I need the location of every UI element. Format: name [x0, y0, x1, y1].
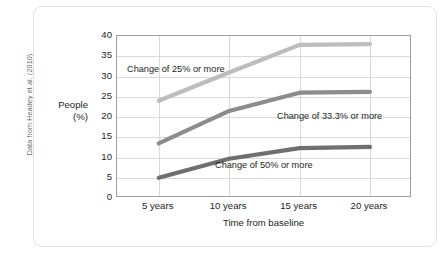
x-axis-title: Time from baseline [116, 217, 411, 228]
x-axis-tick-label: 15 years [280, 201, 317, 211]
figure-card: People (%) 4035302520151050 Change of 25… [33, 6, 437, 247]
chart-figure: People (%) 4035302520151050 Change of 25… [34, 7, 436, 246]
x-axis-tick-labels: 5 years10 years15 years20 years [116, 201, 411, 215]
x-axis-tick-label: 5 years [142, 201, 173, 211]
x-axis-tick-label: 10 years [210, 201, 247, 211]
y-axis-tick-label: 30 [90, 71, 112, 81]
y-axis-tick-label: 40 [90, 30, 112, 40]
annotation-50-percent: Change of 50% or more [215, 161, 313, 170]
y-axis-tick-label: 25 [90, 91, 112, 101]
y-axis-tick-label: 10 [90, 152, 112, 162]
y-axis-tick-label: 0 [90, 192, 112, 202]
figure-page: Data from Headey et al. (2010) People (%… [0, 0, 448, 258]
y-axis-tick-labels: 4035302520151050 [82, 35, 112, 197]
y-axis-tick-label: 5 [90, 172, 112, 182]
plot-area: Change of 25% or more Change of 33.3% or… [116, 35, 411, 197]
x-axis-tick-label: 20 years [351, 201, 388, 211]
y-axis-tick-label: 15 [90, 131, 112, 141]
annotation-33-percent: Change of 33.3% or more [277, 112, 382, 121]
y-axis-tick-label: 35 [90, 50, 112, 60]
annotation-25-percent: Change of 25% or more [127, 65, 225, 74]
y-axis-tick-label: 20 [90, 111, 112, 121]
